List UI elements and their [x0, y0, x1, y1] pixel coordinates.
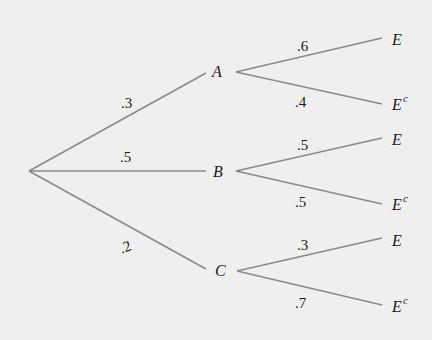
node-a: A [211, 63, 222, 80]
edge-a-e [236, 38, 382, 72]
node-c: C [215, 262, 226, 279]
leaf-a-e: E [391, 31, 402, 48]
prob-a-ec: .4 [295, 94, 307, 110]
node-b: B [213, 163, 223, 180]
prob-a-e: .6 [297, 38, 309, 54]
prob-c: .2 [117, 237, 133, 256]
prob-b: .5 [120, 149, 131, 165]
leaf-b-e: E [391, 131, 402, 148]
leaf-c-ec-superscript: c [403, 294, 408, 306]
prob-c-e: .3 [297, 237, 308, 253]
edge-c-ec [237, 271, 382, 305]
prob-b-e: .5 [297, 137, 308, 153]
prob-c-ec: .7 [295, 295, 307, 311]
edge-b-e [236, 138, 382, 171]
edge-a-ec [236, 72, 382, 104]
leaf-c-ec: E [391, 298, 402, 315]
leaf-c-e: E [391, 232, 402, 249]
edge-root-c [29, 171, 206, 269]
edge-c-e [237, 238, 382, 271]
leaf-a-ec-superscript: c [403, 92, 408, 104]
root-edges [29, 73, 206, 269]
prob-b-ec: .5 [295, 194, 306, 210]
leaf-b-ec: E [391, 196, 402, 213]
edge-root-a [29, 73, 206, 171]
probability-tree-diagram: .3 .5 .2 A .6 .4 E E c B .5 .5 E E c C .… [0, 0, 432, 340]
leaf-b-ec-superscript: c [403, 192, 408, 204]
prob-a: .3 [121, 95, 132, 111]
edge-b-ec [236, 171, 382, 204]
leaf-a-ec: E [391, 96, 402, 113]
